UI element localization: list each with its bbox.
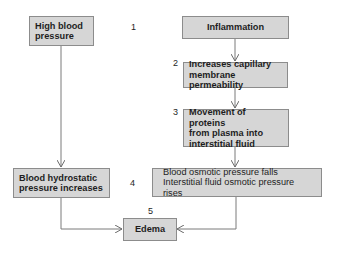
node-label-line: interstitial fluid [189,139,283,150]
node-label-line: membrane permeability [189,70,282,91]
step-number-3: 3 [173,107,178,117]
node-label-line: Blood osmotic pressure falls [163,167,316,178]
step-number-2: 2 [173,58,178,68]
node-label-line: Increases capillary [189,59,282,70]
arrow-osmotic-to-edema [177,196,236,229]
step-number-5: 5 [148,206,153,216]
node-osmotic-pressure-changes: Blood osmotic pressure falls Interstitia… [152,168,322,197]
node-blood-hydrostatic-pressure: Blood hydrostatic pressure increases [13,168,110,198]
node-label-line: pressure [35,31,88,42]
node-inflammation: Inflammation [182,16,289,39]
node-label-line: Inflammation [207,22,264,33]
step-number-1: 1 [131,22,136,32]
node-label-line: Blood hydrostatic [19,173,104,184]
step-number-4: 4 [130,178,135,188]
node-label-line: Movement of proteins [189,107,283,128]
node-label-line: High blood [35,21,88,32]
node-increases-capillary-permeability: Increases capillary membrane permeabilit… [183,62,288,88]
arrow-hydrostatic-to-edema [61,197,122,229]
node-high-blood-pressure: High blood pressure [29,16,94,46]
node-label-line: Interstitial fluid osmotic pressure rise… [163,177,316,198]
node-movement-of-proteins: Movement of proteins from plasma into in… [183,109,289,147]
node-label-line: from plasma into [189,128,283,139]
node-label-line: Edema [135,224,165,235]
node-label-line: pressure increases [19,183,104,194]
node-edema: Edema [123,218,177,241]
